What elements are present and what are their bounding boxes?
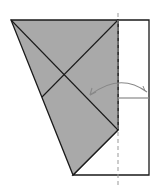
origami-diagram — [0, 0, 160, 192]
